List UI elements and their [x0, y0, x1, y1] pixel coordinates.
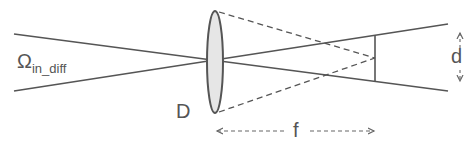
focal-length-label: f	[293, 119, 299, 142]
focus-ray-top	[219, 12, 375, 58]
optics-diagram	[0, 0, 476, 145]
spot-size-label: d	[451, 45, 462, 68]
ray-ascending	[14, 24, 448, 91]
lens-diameter-label: D	[176, 100, 190, 123]
focus-ray-bottom	[219, 58, 375, 112]
omega-in-diff-label: Ωin_diff	[17, 50, 66, 76]
ray-descending	[14, 34, 448, 91]
lens-icon	[207, 11, 223, 113]
dashed-rays	[219, 12, 375, 112]
solid-rays	[14, 24, 448, 91]
